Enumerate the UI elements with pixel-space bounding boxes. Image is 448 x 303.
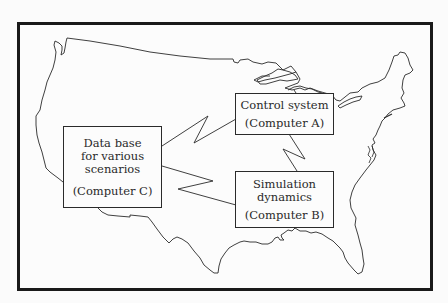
node-control-system-computer-a: Control system (Computer A) xyxy=(235,93,334,135)
node-b-computer-label: (Computer B) xyxy=(245,209,324,222)
node-a-computer-label: (Computer A) xyxy=(245,117,324,130)
node-simulation-dynamics-computer-b: Simulation dynamics (Computer B) xyxy=(235,171,334,228)
node-c-title-line-1: Data base xyxy=(83,137,141,150)
link-a-to-b xyxy=(283,134,305,171)
node-a-title-line-1: Control system xyxy=(240,99,328,112)
node-b-title-line-1: Simulation xyxy=(253,178,316,191)
lake-erie-ontario xyxy=(338,96,362,108)
node-database-computer-c: Data base for various scenarios (Compute… xyxy=(63,126,162,208)
node-c-computer-label: (Computer C) xyxy=(73,185,153,198)
node-b-title-line-2: dynamics xyxy=(257,191,312,204)
lake-superior xyxy=(257,69,298,84)
link-c-to-b xyxy=(162,166,236,205)
node-c-title-line-2: for various xyxy=(81,150,144,163)
diagram-canvas: Data base for various scenarios (Compute… xyxy=(0,0,448,303)
node-c-title-line-3: scenarios xyxy=(85,163,140,176)
link-c-to-a xyxy=(162,116,236,146)
